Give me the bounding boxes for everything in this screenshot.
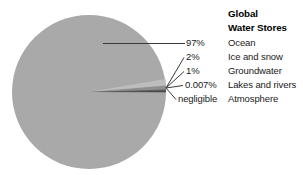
legend-item-ocean: Ocean (228, 38, 256, 48)
legend-item-atmosphere: Atmosphere (228, 94, 278, 104)
chart-title-line-2: Water Stores (228, 23, 287, 33)
legend-item-lakes-and-rivers: Lakes and rivers (228, 80, 296, 90)
leader-line-atmosphere (166, 88, 176, 100)
value-label-ocean: 97% (186, 38, 205, 48)
legend-item-ice-and-snow: Ice and snow (228, 52, 283, 62)
value-label-atmosphere: negligible (178, 94, 217, 104)
value-label-lakes-and-rivers: 0.007% (185, 80, 217, 90)
leader-line-ice-and-snow (166, 58, 184, 89)
chart-figure: 97% 2% 1% 0.007% negligible Global Water… (0, 0, 303, 175)
legend-item-groundwater: Groundwater (228, 66, 282, 76)
chart-title-line-1: Global (228, 9, 258, 19)
value-label-groundwater: 1% (186, 66, 200, 76)
value-label-ice-and-snow: 2% (186, 52, 200, 62)
